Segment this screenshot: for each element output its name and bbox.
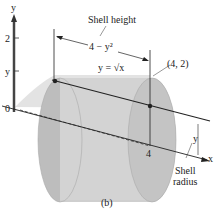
- y-tick-y: y: [5, 66, 10, 77]
- panel-label: (b): [101, 197, 113, 208]
- x-tick-4: 4: [146, 148, 151, 159]
- y-axis-label: y: [11, 2, 16, 13]
- radius-symbol: y: [193, 133, 198, 144]
- x-axis-label: x: [208, 153, 213, 164]
- shell-radius-line2: radius: [173, 176, 197, 187]
- height-expression: 4 − y²: [89, 41, 113, 52]
- curve-equation: y = √x: [98, 62, 124, 73]
- shell-method-figure: y 2 y 0 Shell height 4 − y² y = √x (4, 2…: [0, 0, 217, 211]
- origin-label: 0: [5, 103, 10, 114]
- shell-radius-line1: Shell: [175, 165, 196, 176]
- point-label: (4, 2): [167, 58, 189, 69]
- y-tick-2: 2: [5, 33, 10, 44]
- shell-height-label: Shell height: [88, 14, 136, 25]
- cylinder-front-ellipse: [128, 78, 176, 202]
